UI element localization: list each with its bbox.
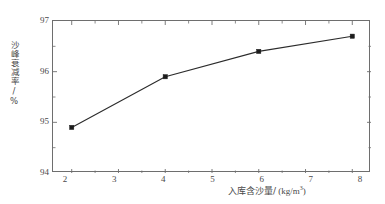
data-point-marker bbox=[163, 75, 167, 79]
y-tick-label-95: 95 bbox=[25, 116, 49, 126]
x-axis-label: 入库含沙量/ (kg/m3) bbox=[228, 184, 306, 197]
y-tick-label-97: 97 bbox=[25, 15, 49, 25]
x-axis-unit-close: ) bbox=[303, 186, 306, 196]
series-line bbox=[72, 36, 353, 127]
x-tick-label-8: 8 bbox=[350, 174, 370, 184]
y-tick-label-96: 96 bbox=[25, 66, 49, 76]
x-axis-unit-open: (kg/m bbox=[276, 186, 300, 196]
y-tick-label-94: 94 bbox=[25, 167, 49, 177]
chart-canvas bbox=[53, 21, 371, 173]
x-tick-label-7: 7 bbox=[301, 174, 321, 184]
x-tick-label-3: 3 bbox=[104, 174, 124, 184]
plot-area bbox=[52, 20, 370, 172]
y-axis-label: 沙峰衰减率/% bbox=[2, 18, 18, 128]
x-tick-label-4: 4 bbox=[153, 174, 173, 184]
x-tick-label-6: 6 bbox=[252, 174, 272, 184]
data-point-marker bbox=[257, 49, 261, 53]
data-point-marker bbox=[70, 125, 74, 129]
x-axis-label-text: 入库含沙量/ bbox=[228, 186, 276, 196]
x-tick-label-5: 5 bbox=[203, 174, 223, 184]
chart-figure: 沙峰衰减率/% 97 96 95 94 2 3 4 5 6 7 8 入库含沙量/… bbox=[0, 0, 385, 204]
x-tick-label-2: 2 bbox=[55, 174, 75, 184]
data-point-marker bbox=[350, 34, 354, 38]
